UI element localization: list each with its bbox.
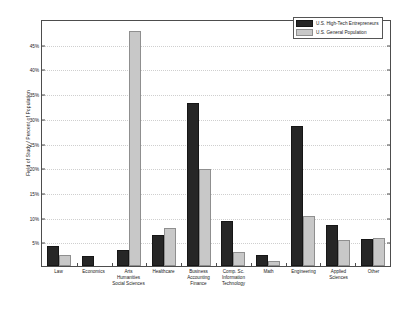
bar[interactable] [152,235,164,266]
x-axis-category-line: Law [41,269,76,275]
bar[interactable] [117,250,129,266]
y-axis-tick-label: 15% [30,191,39,196]
bar[interactable] [256,255,268,266]
bar-group [42,21,77,266]
x-axis-tick-mark [146,263,147,266]
bar[interactable] [291,126,303,266]
x-axis-category-label: Comp. Sc.InformationTechnology [216,269,251,314]
x-axis-tick-mark [355,263,356,266]
x-axis-tick-mark [286,263,287,266]
bar[interactable] [326,225,338,266]
y-axis-tick-label: 45% [30,43,39,48]
x-axis-tick-mark [181,263,182,266]
bar[interactable] [268,261,280,266]
y-axis-tick-label: 40% [30,68,39,73]
bar[interactable] [47,246,59,266]
x-axis-category-label: ArtsHumanitiesSocial Sciences [111,269,146,314]
legend-swatch-icon [296,20,313,27]
x-axis-category-label: Math [251,269,286,314]
legend-swatch-icon [296,29,313,36]
x-axis-tick-mark [251,263,252,266]
bar-group [146,21,181,266]
bar[interactable] [338,240,350,266]
bar-group [251,21,286,266]
bar[interactable] [303,216,315,266]
y-axis-tick-label: 5% [32,241,39,246]
x-axis-category-label: Economics [76,269,111,314]
bar[interactable] [233,252,245,266]
plot-area: 5%10%15%20%25%30%35%40%45% [41,20,391,267]
y-axis-tick-label: 35% [30,93,39,98]
x-axis-tick-mark [320,263,321,266]
bar-group [216,21,251,266]
x-axis-tick-mark [216,263,217,266]
y-axis-tick-label: 25% [30,142,39,147]
y-axis-tick-label: 10% [30,216,39,221]
x-axis-category-label: AppliedSciences [321,269,356,314]
legend-label: U.S. High-Tech Entrepreneurs [316,21,379,26]
x-axis-category-line: Social Sciences [111,281,146,287]
y-axis-tick-label: 30% [30,117,39,122]
bar-groups [42,21,390,266]
x-axis-category-line: Sciences [321,275,356,281]
x-axis-category-line: Healthcare [146,269,181,275]
x-axis-tick-mark [112,263,113,266]
legend-item-general-population[interactable]: U.S. General Population [296,29,379,36]
y-axis-tick-label: 20% [30,167,39,172]
x-axis-category-line: Math [251,269,286,275]
x-axis-category-line: Technology [216,281,251,287]
chart-figure: Field of Study / Percent of Population 5… [0,0,409,316]
x-axis-category-line: Engineering [286,269,321,275]
bar-group [77,21,112,266]
bar-group [181,21,216,266]
bar-group [355,21,390,266]
x-axis-category-label: Healthcare [146,269,181,314]
x-axis-category-label: Engineering [286,269,321,314]
bar[interactable] [361,239,373,266]
bar-group [286,21,321,266]
chart-legend: U.S. High-Tech Entrepreneurs U.S. Genera… [293,17,383,39]
bar-group [320,21,355,266]
bar[interactable] [59,255,71,266]
x-axis-category-label: Law [41,269,76,314]
bar[interactable] [221,221,233,266]
x-axis-category-line: Finance [181,281,216,287]
bar-group [112,21,147,266]
legend-item-high-tech-entrepreneurs[interactable]: U.S. High-Tech Entrepreneurs [296,20,379,27]
x-axis-category-label: Other [356,269,391,314]
bar[interactable] [199,169,211,266]
x-axis-category-line: Other [356,269,391,275]
bar[interactable] [82,256,94,266]
x-axis-category-label: BusinessAccountingFinance [181,269,216,314]
legend-label: U.S. General Population [316,30,367,35]
x-axis-category-line: Economics [76,269,111,275]
bar[interactable] [373,238,385,266]
x-axis-tick-mark [77,263,78,266]
bar[interactable] [187,103,199,266]
bar[interactable] [164,228,176,266]
bar[interactable] [129,31,141,266]
x-axis-labels: LawEconomicsArtsHumanitiesSocial Science… [41,269,391,314]
